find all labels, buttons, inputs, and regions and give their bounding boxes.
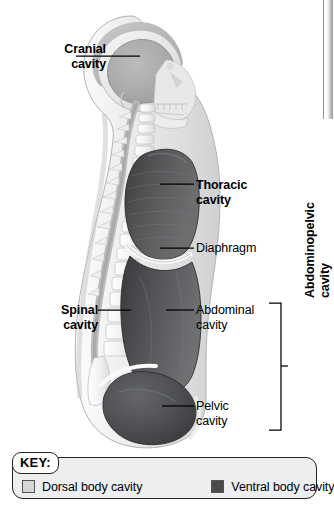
label-cranial-cavity: Cranial cavity [18, 42, 106, 72]
swatch-dorsal-body-cavity [22, 480, 35, 493]
label-spinal-cavity: Spinal cavity [6, 303, 98, 333]
page-edge-line [323, 0, 325, 119]
label-diaphragm: Diaphragm [196, 241, 306, 256]
key-legend-items: Dorsal body cavity Ventral body cavity [12, 474, 317, 499]
key-item-ventral: Ventral body cavity [211, 480, 334, 494]
label-pelvic-cavity: Pelvic cavity [196, 399, 288, 429]
key-legend-title: KEY: [12, 452, 59, 474]
label-thoracic-cavity: Thoracic cavity [196, 178, 306, 208]
key-label-dorsal: Dorsal body cavity [42, 480, 142, 494]
key-item-dorsal: Dorsal body cavity [22, 480, 142, 494]
swatch-ventral-body-cavity [211, 480, 224, 493]
label-abdominopelvic-cavity-text: Abdominopelvic cavity [303, 168, 332, 298]
label-abdominal-cavity: Abdominal cavity [196, 303, 288, 333]
thoracic-cavity [125, 149, 199, 259]
label-abdominopelvic-cavity: Abdominopelvic cavity [292, 168, 332, 298]
key-label-ventral: Ventral body cavity [231, 480, 334, 494]
